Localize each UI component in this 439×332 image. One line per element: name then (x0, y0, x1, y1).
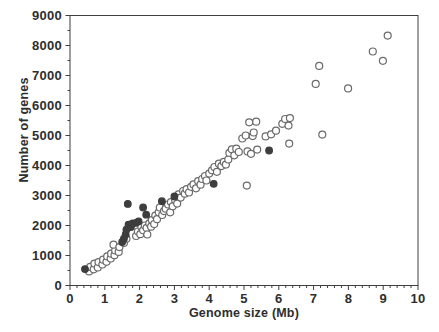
data-point-open (248, 150, 255, 157)
data-point-filled (210, 181, 217, 188)
data-point-open (369, 48, 376, 55)
x-tick-label: 3 (171, 291, 179, 306)
y-tick-label: 0 (54, 278, 62, 293)
data-point-open (379, 57, 386, 64)
data-point-open (384, 32, 391, 39)
x-tick-label: 6 (275, 291, 283, 306)
data-point-open (285, 122, 292, 129)
y-tick-label: 9000 (32, 8, 62, 23)
x-tick-label: 9 (379, 291, 387, 306)
y-tick-label: 8000 (32, 38, 62, 53)
data-point-open (242, 132, 249, 139)
data-point-filled (266, 147, 273, 154)
scatter-plot-canvas: 0123456789100100020003000400050006000700… (0, 0, 439, 332)
y-tick-label: 2000 (32, 218, 62, 233)
y-tick-label: 5000 (32, 128, 62, 143)
data-point-open (319, 131, 326, 138)
x-tick-label: 7 (310, 291, 318, 306)
y-axis-title: Number of genes (17, 77, 31, 182)
x-tick-label: 4 (205, 291, 213, 306)
data-point-open (286, 115, 293, 122)
x-tick-label: 1 (101, 291, 109, 306)
data-point-open (144, 231, 151, 238)
data-point-filled (143, 211, 150, 218)
data-point-open (286, 140, 293, 147)
y-tick-label: 6000 (32, 98, 62, 113)
x-axis-title: Genome size (Mb) (70, 306, 418, 320)
data-point-filled (82, 266, 89, 273)
data-point-filled (159, 198, 166, 205)
y-tick-label: 3000 (32, 188, 62, 203)
scatter-figure: 0123456789100100020003000400050006000700… (0, 0, 439, 332)
data-point-open (203, 177, 210, 184)
data-point-open (254, 146, 261, 153)
x-tick-label: 2 (136, 291, 144, 306)
x-tick-label: 10 (410, 291, 425, 306)
data-point-open (246, 119, 253, 126)
data-point-filled (171, 193, 178, 200)
data-point-open (345, 85, 352, 92)
data-point-open (243, 182, 250, 189)
data-point-filled (125, 201, 132, 208)
data-point-open (316, 62, 323, 69)
x-tick-label: 0 (66, 291, 74, 306)
x-tick-label: 5 (240, 291, 248, 306)
data-point-filled (135, 218, 142, 225)
data-point-open (235, 149, 242, 156)
data-point-filled (140, 204, 147, 211)
data-point-open (250, 129, 257, 136)
y-tick-label: 7000 (32, 68, 62, 83)
y-tick-label: 4000 (32, 158, 62, 173)
data-point-open (312, 80, 319, 87)
data-point-open (273, 127, 280, 134)
x-tick-label: 8 (345, 291, 353, 306)
y-tick-label: 1000 (32, 248, 62, 263)
data-point-open (253, 118, 260, 125)
